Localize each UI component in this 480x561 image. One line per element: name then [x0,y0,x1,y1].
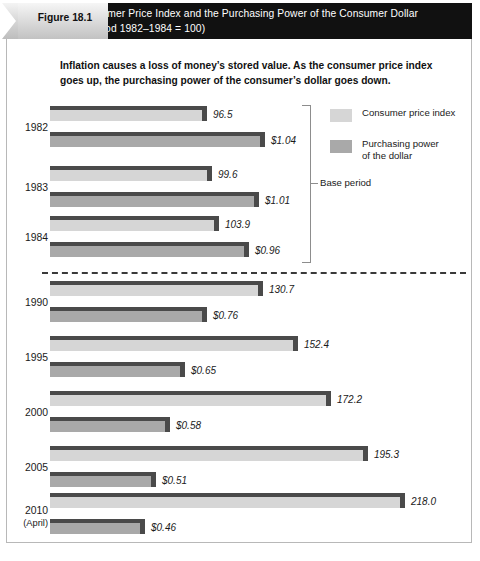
bar-value-cpi-1982: 96.5 [213,109,232,120]
bar-purchasing-power-1983 [50,192,259,207]
bar-purchasing-power-1984 [50,242,249,257]
year-label-text: 2000 [25,407,48,418]
legend-swatch-purchasing-power-icon [330,140,352,153]
bar-purchasing-power-1982 [50,132,265,147]
bar-value-cpi-1984: 103.9 [225,219,250,230]
bar-value-purchasing-power-2005: $0.51 [162,475,187,486]
bar-value-purchasing-power-1982: $1.04 [271,135,296,146]
year-label-2010: 2010(April) [2,505,48,529]
bar-cpi-1990 [50,281,263,296]
legend-swatch-cpi-icon [330,109,352,122]
bar-value-cpi-2010: 218.0 [411,496,436,507]
year-label-text: 2010 [25,505,48,516]
year-label-1983: 1983 [2,182,48,194]
legend-label-purchasing-power: Purchasing power of the dollar [362,138,470,162]
bar-value-purchasing-power-1983: $1.01 [265,195,290,206]
bar-value-cpi-1983: 99.6 [218,169,237,180]
bar-value-cpi-1995: 152.4 [304,339,329,350]
year-label-text: 2005 [25,462,48,473]
chart-legend: Consumer price index Purchasing power of… [330,108,470,170]
bar-purchasing-power-2000 [50,417,170,432]
bar-cpi-1984 [50,216,219,231]
base-period-label: Base period [320,177,371,188]
year-label-1984: 1984 [2,232,48,244]
bar-cpi-2010 [50,493,405,508]
bar-value-purchasing-power-1990: $0.76 [213,310,238,321]
bar-cpi-1983 [50,166,212,181]
year-label-subtext: (April) [2,517,48,529]
year-label-text: 1984 [25,232,48,243]
year-label-1990: 1990 [2,297,48,309]
year-label-1995: 1995 [2,352,48,364]
legend-item-cpi: Consumer price index [330,108,470,132]
bar-value-cpi-2000: 172.2 [337,394,362,405]
year-label-2005: 2005 [2,462,48,474]
bar-value-cpi-1990: 130.7 [269,284,294,295]
legend-label-purchasing-power-line2: of the dollar [362,150,470,162]
figure-root: The Consumer Price Index and the Purchas… [0,0,480,561]
bar-value-purchasing-power-2010: $0.46 [151,522,176,533]
year-label-text: 1983 [25,182,48,193]
bar-purchasing-power-2010 [50,519,145,534]
bar-cpi-1982 [50,106,207,121]
year-label-1982: 1982 [2,122,48,134]
base-period-bracket [302,105,311,263]
base-period-bracket-tick [311,183,318,184]
chart-plot-area: 96.5$1.04198299.6$1.011983103.9$0.961984… [0,0,480,561]
legend-label-purchasing-power-line1: Purchasing power [362,138,439,149]
bar-cpi-1995 [50,336,298,351]
legend-item-purchasing-power: Purchasing power of the dollar [330,139,470,163]
bar-value-purchasing-power-2000: $0.58 [176,420,201,431]
year-label-text: 1990 [25,297,48,308]
bar-value-purchasing-power-1984: $0.96 [255,245,280,256]
bar-purchasing-power-1995 [50,362,185,377]
year-label-text: 1982 [25,122,48,133]
legend-label-cpi: Consumer price index [362,107,470,119]
year-label-2000: 2000 [2,407,48,419]
bar-value-cpi-2005: 195.3 [374,449,399,460]
bar-purchasing-power-2005 [50,472,156,487]
bar-value-purchasing-power-1995: $0.65 [191,365,216,376]
bar-cpi-2005 [50,446,368,461]
year-label-text: 1995 [25,352,48,363]
bar-purchasing-power-1990 [50,307,207,322]
period-separator-dashed-line [42,272,466,274]
bar-cpi-2000 [50,391,331,406]
